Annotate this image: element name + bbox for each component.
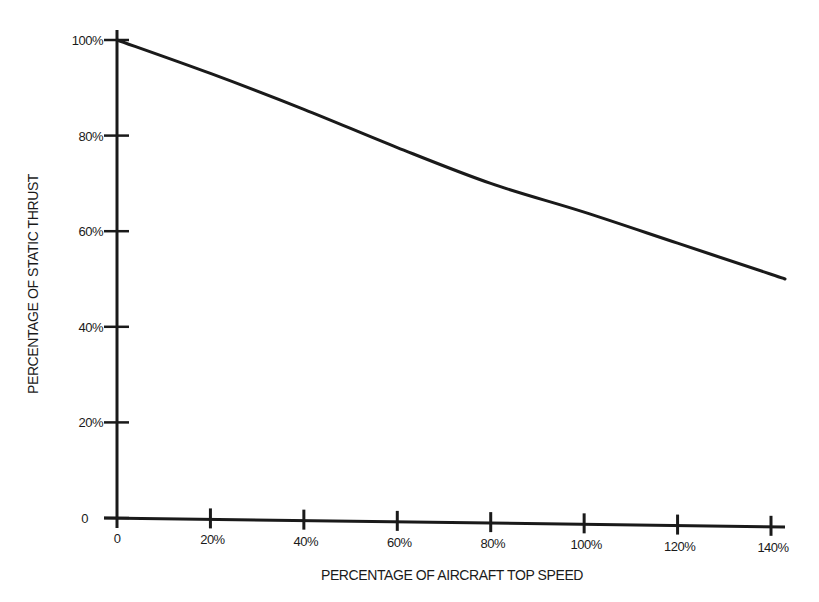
thrust-vs-speed-chart: 020%40%60%80%100% 020%40%60%80%100%120%1… [0, 0, 819, 602]
y-axis-title: PERCENTAGE OF STATIC THRUST [25, 173, 41, 394]
y-tick-label: 20% [78, 415, 103, 430]
x-tick-label: 140% [757, 540, 789, 555]
thrust-curve [117, 40, 785, 279]
y-tick-label: 0 [81, 511, 88, 526]
y-tick-label: 80% [78, 129, 103, 144]
x-tick-label: 120% [664, 539, 696, 554]
x-tick-label: 60% [387, 535, 412, 550]
y-tick-label: 40% [78, 320, 103, 335]
x-tick-label: 100% [571, 537, 603, 552]
x-axis-title: PERCENTAGE OF AIRCRAFT TOP SPEED [321, 567, 583, 583]
x-tick-label: 0 [114, 531, 121, 546]
y-tick-label: 100% [72, 33, 104, 48]
x-axis-ticks: 020%40%60%80%100%120%140% [114, 508, 790, 554]
x-axis [104, 518, 785, 527]
y-tick-label: 60% [78, 224, 103, 239]
x-tick-label: 20% [200, 532, 225, 547]
y-axis-ticks: 020%40%60%80%100% [72, 33, 129, 526]
x-tick-label: 80% [480, 536, 505, 551]
x-tick-label: 40% [294, 534, 319, 549]
